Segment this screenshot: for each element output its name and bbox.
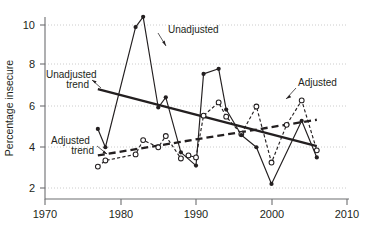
data-point — [269, 182, 273, 186]
data-point — [179, 150, 183, 154]
insecurity-line-chart: 2 4 6 8 10 1970 1980 1990 2000 2010 Perc… — [0, 0, 372, 225]
data-point — [201, 113, 206, 118]
data-point — [254, 145, 258, 149]
y-tickmarks — [40, 25, 45, 188]
data-point — [164, 95, 168, 99]
axis-frame — [45, 17, 349, 199]
trend-lines — [98, 89, 317, 155]
annotation-adjusted: Adjusted — [298, 77, 337, 88]
data-point — [224, 107, 228, 111]
data-point — [194, 163, 198, 167]
unadjusted-series-markers — [96, 15, 319, 186]
data-point — [284, 122, 289, 127]
data-point — [300, 119, 304, 123]
chart-container: 2 4 6 8 10 1970 1980 1990 2000 2010 Perc… — [0, 0, 372, 225]
series-lines — [98, 17, 317, 184]
data-point — [224, 114, 229, 119]
annotation-leaders — [92, 33, 296, 154]
x-tick-label-2000: 2000 — [260, 208, 284, 220]
y-tick-label-10: 10 — [23, 19, 35, 31]
data-point — [239, 133, 243, 137]
adjusted-series-markers — [95, 98, 319, 169]
x-tickmarks — [45, 199, 347, 205]
data-point — [156, 145, 161, 150]
data-point — [254, 104, 259, 109]
data-point — [141, 15, 145, 19]
y-tick-label-8: 8 — [29, 58, 35, 70]
data-point — [141, 138, 146, 143]
x-tick-label-1970: 1970 — [33, 208, 57, 220]
x-tick-label-2010: 2010 — [335, 208, 359, 220]
data-point — [314, 148, 319, 153]
data-point — [133, 152, 138, 157]
y-tick-labels: 2 4 6 8 10 — [23, 19, 35, 194]
annotation-adjusted-trend-line2: trend — [71, 145, 94, 156]
data-point — [134, 25, 138, 29]
data-point — [95, 164, 100, 169]
data-point — [201, 72, 205, 76]
data-point — [163, 134, 168, 139]
y-tick-label-4: 4 — [29, 141, 35, 153]
data-point — [217, 67, 221, 71]
data-point — [186, 153, 191, 158]
axes — [40, 17, 349, 205]
data-point — [96, 127, 100, 131]
annotation-unadjusted-trend-line2: trend — [66, 79, 89, 90]
data-point — [156, 105, 160, 109]
y-tick-label-6: 6 — [29, 100, 35, 112]
y-tick-label-2: 2 — [29, 182, 35, 194]
x-tick-label-1980: 1980 — [109, 208, 133, 220]
data-point — [179, 156, 184, 161]
data-point — [299, 98, 304, 103]
x-tick-label-1990: 1990 — [184, 208, 208, 220]
data-point — [103, 158, 108, 163]
unadjusted-series-line — [98, 17, 317, 184]
y-axis-title: Percentage insecure — [3, 60, 15, 156]
x-tick-labels: 1970 1980 1990 2000 2010 — [33, 208, 359, 220]
data-point — [103, 145, 107, 149]
data-point — [194, 155, 199, 160]
data-point — [315, 155, 319, 159]
data-point — [269, 160, 274, 165]
data-point — [216, 100, 221, 105]
annotation-unadjusted: Unadjusted — [168, 24, 219, 35]
